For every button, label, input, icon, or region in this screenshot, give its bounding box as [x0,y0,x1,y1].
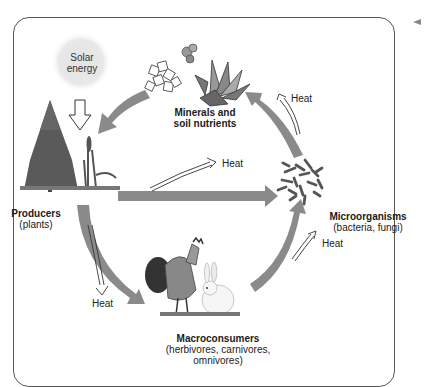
heat-label-producers: Heat [222,158,243,169]
macro-to-micro-arrow [250,199,306,292]
heat-label-macro-right: Heat [322,238,343,249]
minerals-label: Minerals and soil nutrients [150,107,260,129]
heat-arrow-4-icon [292,231,316,261]
macroconsumers-title: Macroconsumers [148,333,288,344]
heat-label-macro-left: Heat [92,298,113,309]
minerals-illustration [145,44,250,106]
solar-label-line2: energy [67,63,98,74]
solar-energy-label: Solar energy [60,52,104,74]
microorganisms-illustration [278,160,322,204]
minerals-title-line1: Minerals and [150,107,260,118]
producers-title: Producers [6,208,66,219]
producers-illustration [20,100,120,192]
microorganisms-label: Microorganisms (bacteria, fungi) [318,211,418,233]
macroconsumers-subtitle-line2: omnivores) [193,355,242,366]
macroconsumers-illustration [145,238,240,316]
macroconsumers-label: Macroconsumers (herbivores, carnivores, … [148,333,288,366]
producers-label: Producers (plants) [6,208,66,230]
microorganisms-subtitle: (bacteria, fungi) [333,222,402,233]
microorganisms-title: Microorganisms [318,211,418,222]
producers-to-macro-arrow [77,205,145,304]
producers-to-micro-arrow [118,185,278,207]
macroconsumers-subtitle-line1: (herbivores, carnivores, [166,344,270,355]
solar-arrow-icon [69,100,91,130]
minerals-title-line2: soil nutrients [150,118,260,129]
minerals-to-producers-arrow [98,90,150,134]
heat-arrow-1-icon [150,158,216,191]
producers-subtitle: (plants) [19,219,52,230]
heat-label-micro: Heat [291,93,312,104]
solar-label-line1: Solar [70,52,93,63]
